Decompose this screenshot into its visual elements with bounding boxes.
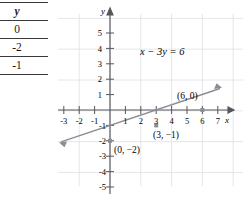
value-table: y 0 -2 -1: [0, 2, 48, 75]
y-tick-3: 3: [98, 59, 102, 69]
equation-label: x − 3y = 6: [139, 46, 185, 57]
point-0-neg2: [108, 139, 112, 143]
table-cell-y-0: 0: [0, 21, 48, 38]
x-tick-4: 4: [169, 116, 174, 126]
x-tick--1: -1: [91, 116, 98, 126]
y-tick--4: -4: [99, 167, 107, 177]
coordinate-graph: x y -3 -2 -1 1 2 3 4 5 6 7 5 4 3 2 1: [58, 0, 245, 199]
y-tick--1: -1: [99, 121, 106, 131]
x-axis-label: x: [224, 115, 229, 125]
y-tick-5: 5: [98, 28, 102, 38]
x-tick--2: -2: [76, 116, 83, 126]
y-tick--2: -2: [99, 136, 106, 146]
x-tick-1: 1: [123, 116, 127, 126]
y-axis-arrow: [107, 8, 113, 15]
point-label-0-neg2: (0, −2): [114, 145, 140, 156]
x-tick-5: 5: [185, 116, 189, 126]
x-tick-6: 6: [200, 116, 204, 126]
x-tick-2: 2: [139, 116, 143, 126]
point-label-3-neg1: (3, −1): [153, 130, 179, 141]
y-axis-label: y: [100, 6, 105, 16]
y-tick-1: 1: [98, 90, 102, 100]
y-tick-4: 4: [98, 44, 103, 54]
table-cell-y-2: -1: [0, 57, 48, 74]
axes: [58, 8, 234, 194]
y-tick--5: -5: [99, 182, 106, 192]
x-tick-3: 3: [154, 116, 158, 126]
table-header-y: y: [0, 3, 48, 20]
point-label-6-0: (6, 0): [177, 91, 198, 102]
x-tick--3: -3: [60, 116, 67, 126]
table-cell-y-1: -2: [0, 39, 48, 56]
x-tick-7: 7: [216, 116, 220, 126]
point-6-0: [200, 108, 204, 112]
y-tick--3: -3: [99, 151, 106, 161]
y-tick-2: 2: [98, 74, 102, 84]
figure-root: y 0 -2 -1: [0, 0, 245, 199]
x-tick-labels: -3 -2 -1 1 2 3 4 5 6 7: [60, 116, 220, 126]
table-rule-bottom: [0, 74, 48, 75]
grid-lines: [58, 14, 243, 186]
